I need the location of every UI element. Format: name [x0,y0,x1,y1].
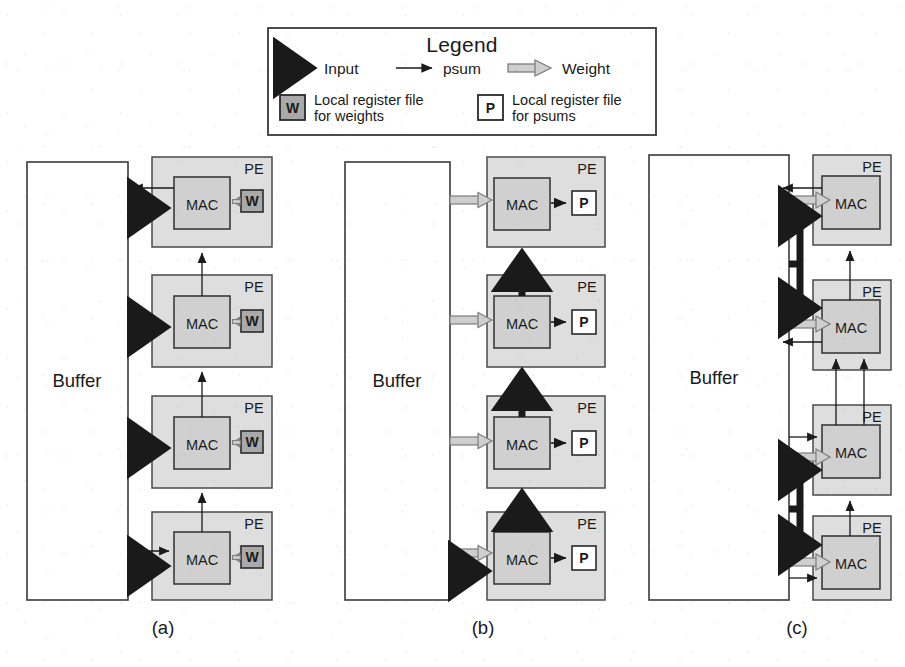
legend-input-label: Input [324,61,358,77]
panel-b-mac-label-1: MAC [506,198,538,213]
panel-b-pe-tag-1: PE [577,162,596,177]
legend-weight-label: Weight [562,61,610,77]
panel-a-pe-tag-2: PE [244,280,263,295]
panel-a-mac-label-1: MAC [186,198,218,213]
panel-b-p-glyph-3: P [579,436,588,450]
diagram-vector-layer [0,0,905,667]
panel-c-pe-tag-4: PE [862,521,881,536]
figure-canvas: Legend Input psum Weight W P Local regis… [0,0,905,667]
panel-b-mac-label-2: MAC [506,317,538,332]
panel-a-w-glyph-1: W [245,194,258,208]
legend-w-desc: Local register file for weights [314,92,434,124]
panel-c-mac-label-2: MAC [835,321,867,336]
panel-a-pe-tag-1: PE [244,162,263,177]
panel-b-pe-tag-4: PE [577,517,596,532]
panel-a-w-glyph-3: W [245,435,258,449]
panel-c-pe-tag-2: PE [862,285,881,300]
panel-c-mac-label-1: MAC [835,197,867,212]
legend-p-desc-line1: Local register file [512,92,622,108]
panel-a-pe-tag-3: PE [244,401,263,416]
panel-a-buffer-label: Buffer [52,372,101,391]
legend-p-desc: Local register file for psums [512,92,632,124]
panel-a-w-glyph-2: W [245,314,258,328]
panel-a-mac-label-4: MAC [186,553,218,568]
panel-b-weight-arrows [450,193,492,561]
panel-b-mac-label-4: MAC [506,553,538,568]
panel-c-mac-label-3: MAC [835,446,867,461]
panel-b-label: (b) [472,619,495,638]
panel-b-pe-tag-3: PE [577,401,596,416]
panel-c [649,155,891,600]
panel-c-mac-label-4: MAC [835,557,867,572]
panel-c-buffer-label: Buffer [689,369,738,388]
legend-w-glyph: W [286,101,299,115]
panel-b-p-glyph-2: P [579,315,588,329]
panel-c-weight-arrows [789,192,830,570]
panel-c-pe-tag-3: PE [862,410,881,425]
panel-b-mac-label-3: MAC [506,438,538,453]
panel-b-buffer-label: Buffer [372,372,421,391]
panel-b-pe-tag-2: PE [577,280,596,295]
panel-c-pe-tag-1: PE [862,160,881,175]
panel-a-pe-tag-4: PE [244,517,263,532]
panel-a-w-glyph-4: W [245,550,258,564]
panel-a-mac-label-2: MAC [186,317,218,332]
legend-w-desc-line1: Local register file [314,92,424,108]
panel-c-label: (c) [786,619,808,638]
panel-b-p-glyph-4: P [579,551,588,565]
legend-p-desc-line2: for psums [512,108,576,124]
panel-b-p-glyph-1: P [579,196,588,210]
legend-psum-label: psum [443,61,481,77]
panel-a-label: (a) [152,619,175,638]
legend-title: Legend [426,34,497,55]
legend-p-glyph: P [486,101,495,115]
panel-a-mac-label-3: MAC [186,438,218,453]
legend-w-desc-line2: for weights [314,108,384,124]
